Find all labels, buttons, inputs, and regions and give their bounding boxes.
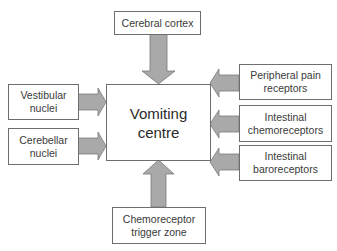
label-peripheral-pain-receptors: Peripheral pain receptors [250,69,321,95]
label-vestibular-nuclei: Vestibular nuclei [20,89,66,115]
box-intestinal-baroreceptors: Intestinal baroreceptors [239,145,332,181]
arrow-right-2 [210,110,239,138]
arrow-left-2 [78,132,106,160]
label-cerebellar-nuclei: Cerebellar nuclei [19,134,67,160]
arrow-right-3 [210,148,239,176]
box-peripheral-pain-receptors: Peripheral pain receptors [239,64,332,100]
arrow-left-1 [78,88,106,116]
box-vestibular-nuclei: Vestibular nuclei [8,84,79,120]
label-vomiting-centre: Vomiting centre [130,104,188,142]
box-intestinal-chemoreceptors: Intestinal chemoreceptors [239,105,332,142]
box-cerebral-cortex: Cerebral cortex [114,11,201,35]
label-intestinal-baroreceptors: Intestinal baroreceptors [253,150,318,176]
box-cerebellar-nuclei: Cerebellar nuclei [8,128,79,165]
label-intestinal-chemoreceptors: Intestinal chemoreceptors [248,111,323,137]
box-chemoreceptor-trigger-zone: Chemoreceptor trigger zone [112,207,206,244]
arrow-bottom-up [143,160,174,207]
label-cerebral-cortex: Cerebral cortex [122,17,194,30]
box-vomiting-centre: Vomiting centre [106,84,211,161]
arrow-top-down [142,34,175,84]
label-chemoreceptor-trigger-zone: Chemoreceptor trigger zone [123,213,195,239]
arrow-right-1 [210,69,239,97]
